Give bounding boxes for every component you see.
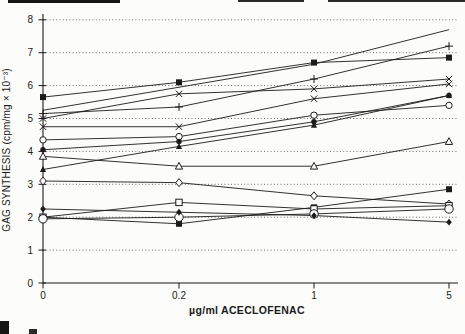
- tick-labels: 01234567800.215: [27, 14, 452, 300]
- x-tick-label: 0: [40, 290, 46, 301]
- markers-x-upper: [40, 76, 452, 122]
- y-tick-label: 4: [27, 146, 33, 157]
- markers-plus: [39, 42, 453, 117]
- y-tick-label: 3: [27, 179, 33, 190]
- chart-svg: 01234567800.215 µg/ml ACECLOFENAC GAG SY…: [0, 0, 465, 334]
- x-axis-title: µg/ml ACECLOFENAC: [189, 304, 305, 316]
- y-tick-label: 6: [27, 80, 33, 91]
- y-tick-label: 7: [27, 47, 33, 58]
- y-tick-label: 5: [27, 113, 33, 124]
- y-tick-label: 2: [27, 212, 33, 223]
- series-plus: [43, 46, 449, 113]
- markers-filled-circle: [40, 93, 451, 153]
- data-series: [39, 30, 453, 227]
- markers-x-lower: [40, 81, 452, 130]
- y-tick-label: 8: [27, 14, 33, 25]
- gag-synthesis-chart: 01234567800.215 µg/ml ACECLOFENAC GAG SY…: [0, 0, 465, 334]
- series-open-diamond: [43, 181, 449, 204]
- series-filled-circle: [43, 95, 449, 149]
- markers-open-triangle: [39, 138, 452, 169]
- series-filled-square-lower: [43, 189, 449, 224]
- markers-filled-square-lower: [40, 186, 452, 227]
- y-axis-title: GAG SYNTHESIS (cpm/mg × 10⁻³): [1, 68, 12, 232]
- series-line-no-marker: [43, 30, 449, 111]
- x-tick-label: 1: [311, 290, 317, 301]
- y-tick-label: 0: [27, 278, 33, 289]
- x-tick-label: 0.2: [172, 290, 186, 301]
- series-open-triangle: [43, 142, 449, 167]
- x-tick-label: 5: [446, 290, 452, 301]
- y-tick-label: 1: [27, 245, 33, 256]
- series-open-square: [43, 202, 449, 217]
- series-filled-triangle: [43, 95, 449, 169]
